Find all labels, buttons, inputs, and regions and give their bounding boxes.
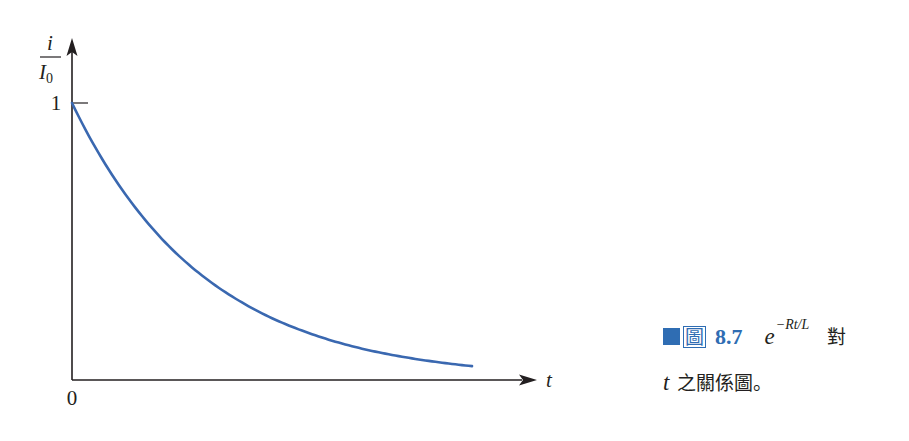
series-line-0 [72,103,472,366]
caption-expr-base: e [765,324,775,349]
caption-expression: e−Rt/L [765,323,810,350]
caption-line-1: 圖 8.7 e−Rt/L 對 [663,322,846,350]
caption-marker-square-icon [663,328,680,345]
y-tick-label-1: 1 [51,91,62,115]
caption-line2-text: 之關係圖。 [677,372,772,394]
series-layer [72,103,472,366]
decay-chart: 1 i I0 0 t [0,0,909,441]
origin-label: 0 [67,386,78,410]
y-axis-label-denominator: I0 [38,60,53,86]
caption-line1-tail: 對 [827,322,846,349]
caption-figure-number: 8.7 [715,324,743,350]
y-axis-label-numerator: i [47,31,53,55]
y-axis-label-subscript: 0 [46,71,53,86]
caption-figure-label: 圖 [683,326,706,348]
caption-line-2: t之關係圖。 [663,368,772,396]
caption-expr-exponent: −Rt/L [776,317,810,332]
x-axis-label: t [546,368,553,392]
caption-variable-t: t [663,370,669,395]
